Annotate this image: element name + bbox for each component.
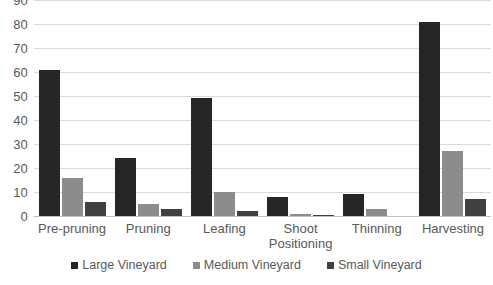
bar[interactable] (343, 194, 364, 216)
y-axis-tick-label: 40 (13, 114, 28, 127)
x-axis-category-labels: Pre-pruningPruningLeafingShoot Positioni… (34, 217, 491, 257)
bar-group (186, 0, 262, 216)
bar[interactable] (419, 22, 440, 216)
x-axis-tick-label: Pruning (110, 217, 186, 257)
bar[interactable] (62, 178, 83, 216)
y-axis-tick-label: 50 (13, 90, 28, 103)
bar[interactable] (115, 158, 136, 216)
y-axis-tick-label: 30 (13, 138, 28, 151)
legend-item[interactable]: Medium Vineyard (193, 259, 301, 272)
bar-groups (34, 0, 491, 216)
bar[interactable] (161, 209, 182, 216)
legend-swatch-icon (71, 262, 78, 269)
bar-group (415, 0, 491, 216)
y-axis-tick-label: 10 (13, 186, 28, 199)
bar-group (339, 0, 415, 216)
y-axis-tick-label: 0 (21, 210, 28, 223)
legend-swatch-icon (193, 262, 200, 269)
legend-label: Small Vineyard (338, 259, 422, 272)
legend-label: Large Vineyard (82, 259, 167, 272)
bar[interactable] (465, 199, 486, 216)
x-axis-tick-label: Leafing (186, 217, 262, 257)
legend-swatch-icon (327, 262, 334, 269)
plot-area (34, 0, 491, 216)
bar[interactable] (313, 215, 334, 216)
x-axis-tick-label: Thinning (339, 217, 415, 257)
y-axis-tick-label: 90 (13, 0, 28, 7)
bar-group (263, 0, 339, 216)
y-axis-tick-label: 20 (13, 162, 28, 175)
x-axis-tick-label: Shoot Positioning (263, 217, 339, 257)
y-axis: 9080706050403020100 (0, 0, 34, 216)
x-axis-tick-label: Pre-pruning (34, 217, 110, 257)
bar[interactable] (214, 192, 235, 216)
bar[interactable] (366, 209, 387, 216)
bar[interactable] (39, 70, 60, 216)
bar[interactable] (85, 202, 106, 216)
chart-legend: Large VineyardMedium VineyardSmall Viney… (0, 259, 493, 272)
bar[interactable] (237, 211, 258, 216)
bar[interactable] (267, 197, 288, 216)
legend-label: Medium Vineyard (204, 259, 301, 272)
legend-item[interactable]: Small Vineyard (327, 259, 422, 272)
bar-chart: 9080706050403020100 Pre-pruningPruningLe… (0, 0, 493, 285)
y-axis-tick-label: 80 (13, 18, 28, 31)
bar[interactable] (442, 151, 463, 216)
x-axis-tick-label: Harvesting (415, 217, 491, 257)
legend-item[interactable]: Large Vineyard (71, 259, 167, 272)
bar[interactable] (138, 204, 159, 216)
bar[interactable] (290, 214, 311, 216)
y-axis-tick-label: 70 (13, 42, 28, 55)
bar-group (34, 0, 110, 216)
plot-wrapper: 9080706050403020100 (0, 0, 493, 216)
bar[interactable] (191, 98, 212, 216)
y-axis-tick-label: 60 (13, 66, 28, 79)
bar-group (110, 0, 186, 216)
